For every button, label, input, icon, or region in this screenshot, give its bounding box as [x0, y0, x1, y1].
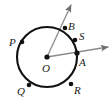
circle-point-a [74, 50, 79, 55]
label-s: S [79, 31, 85, 42]
label-q: Q [17, 86, 25, 97]
circle-point-q [27, 83, 32, 88]
label-r: R [74, 85, 81, 96]
circle-point-b [63, 26, 68, 31]
label-b: B [68, 21, 75, 32]
label-o: O [42, 63, 50, 74]
label-a: A [79, 57, 86, 68]
label-p: P [9, 37, 16, 48]
center-point-o [44, 54, 49, 59]
circle-point-r [69, 82, 74, 87]
geometry-figure: BSARQPO [0, 0, 112, 105]
circle-point-s [73, 38, 78, 43]
rays-group [47, 5, 108, 57]
circle-point-p [20, 40, 25, 45]
